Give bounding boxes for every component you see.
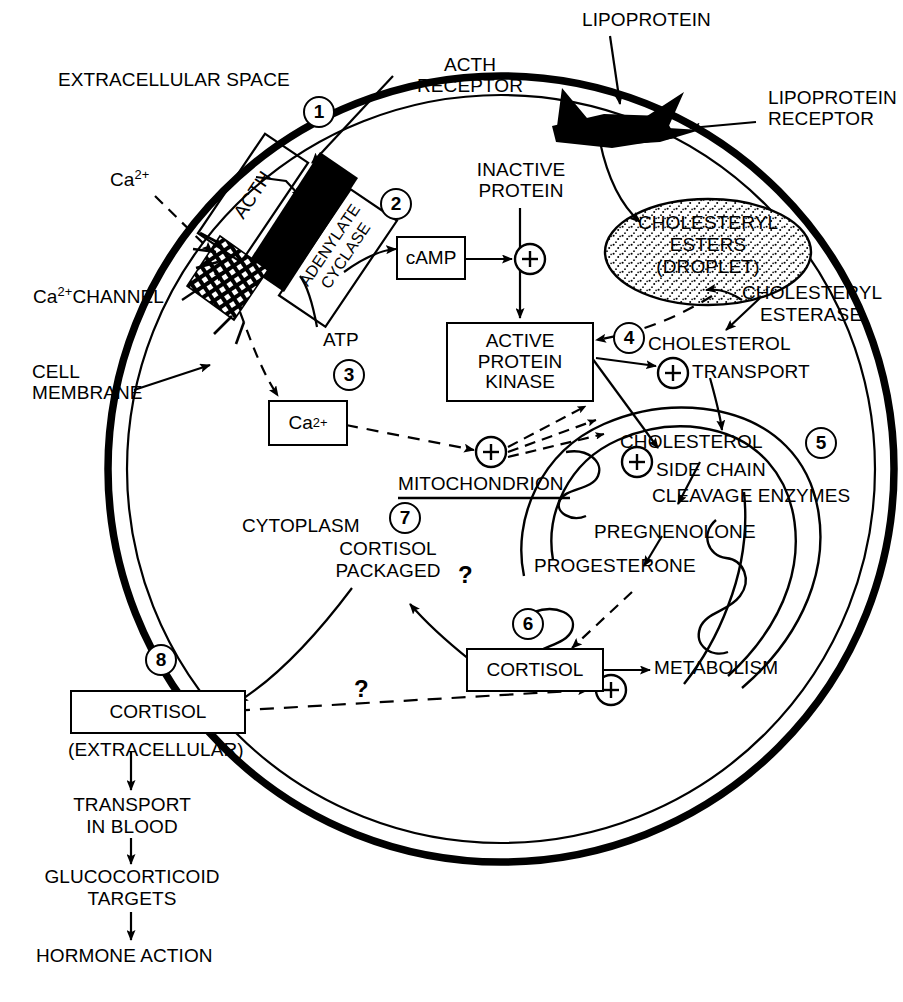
label-cytoplasm: CYTOPLASM: [242, 516, 360, 537]
cortisol-box: CORTISOL: [466, 648, 604, 692]
label-lipoprotein: LIPOPROTEIN: [582, 10, 711, 31]
arrow-packaged-to-extracellular: [238, 588, 352, 702]
apk-line1: ACTIVE: [486, 331, 555, 352]
label-cortisol-packaged: CORTISOLPACKAGED: [320, 538, 456, 582]
arrow-lipoprotein-to-droplet: [600, 142, 640, 222]
leader-lipoprotein-receptor: [690, 122, 756, 128]
label-extracellular-paren: (EXTRACELLULAR): [68, 740, 244, 761]
step-number-1: 1: [303, 96, 335, 128]
arrow-cholesterol-into-mitochondrion: [710, 378, 722, 430]
label-mitochondrion: MITOCHONDRION: [398, 474, 564, 495]
arrow-ca-to-mito-plus: [346, 425, 474, 450]
camp-box: cAMP: [396, 236, 466, 280]
step-number-5: 5: [805, 427, 837, 459]
label-cholesteryl-esters-droplet: CHOLESTERYLESTERS(DROPLET): [625, 212, 791, 278]
apk-line2: PROTEIN: [478, 352, 562, 373]
label-acth-receptor: ACTHRECEPTOR: [400, 55, 540, 96]
label-calcium-channel: Ca2+CHANNEL: [33, 285, 164, 308]
diagram-canvas: EXTRACELLULAR SPACE ACTHRECEPTOR LIPOPRO…: [0, 0, 903, 1002]
label-transport-in-blood: TRANSPORTIN BLOOD: [61, 794, 203, 838]
label-hormone-action: HORMONE ACTION: [36, 946, 213, 967]
label-atp: ATP: [323, 330, 359, 351]
label-cholesterol-transport-line1: CHOLESTEROL: [648, 334, 791, 355]
plus-node-mitochondrion: [476, 437, 506, 467]
arrow-progesterone-to-cortisol: [572, 592, 632, 648]
label-glucocorticoid-targets: GLUCOCORTICOIDTARGETS: [36, 866, 228, 910]
arrow-extracellular-feedback: [212, 690, 588, 712]
plus-node-cholesterol-transport: [658, 358, 688, 388]
arrow-cortisol-to-packaged: [410, 604, 470, 660]
step-number-7: 7: [389, 502, 421, 534]
step-number-3: 3: [333, 359, 365, 391]
label-cholesterol-transport-line2: TRANSPORT: [692, 362, 810, 383]
label-metabolism: METABOLISM: [654, 658, 778, 679]
plus-node-camp: [515, 244, 545, 274]
calcium-box: Ca2+: [268, 400, 348, 446]
active-protein-kinase-box: ACTIVE PROTEIN KINASE: [446, 322, 594, 402]
label-progesterone: PROGESTERONE: [534, 556, 696, 577]
cortisol-extracellular-box: CORTISOL: [70, 690, 246, 734]
label-lipoprotein-receptor: LIPOPROTEINRECEPTOR: [768, 88, 897, 129]
label-cholesteryl-esterase: CHOLESTERYLESTERASE: [742, 282, 882, 326]
step-number-2: 2: [380, 188, 412, 220]
leader-cell-membrane: [134, 365, 210, 390]
label-pregnenolone: PREGNENOLONE: [594, 522, 756, 543]
label-cholesterol-scc-line1: CHOLESTEROL: [620, 432, 763, 453]
arrow-mito-fan-3: [508, 434, 604, 457]
label-extracellular-space: EXTRACELLULAR SPACE: [58, 70, 290, 91]
question-mark-feedback: ?: [354, 676, 369, 702]
label-cholesterol-scc-line3: CLEAVAGE ENZYMES: [652, 486, 850, 507]
label-inactive-protein: INACTIVEPROTEIN: [455, 160, 587, 201]
arrow-kinase-to-transport-plus: [596, 358, 656, 366]
label-cholesterol-scc-line2: SIDE CHAIN: [656, 460, 766, 481]
step-number-8: 8: [145, 644, 177, 676]
step-number-4: 4: [613, 322, 645, 354]
question-mark-packaged: ?: [458, 562, 473, 588]
arrow-channel-to-ca-box: [240, 312, 278, 396]
label-cell-membrane: CELLMEMBRANE: [32, 362, 143, 403]
apk-line3: KINASE: [485, 372, 555, 393]
step-number-6: 6: [512, 608, 544, 640]
label-calcium-ion-extracellular: Ca2+: [110, 168, 149, 191]
